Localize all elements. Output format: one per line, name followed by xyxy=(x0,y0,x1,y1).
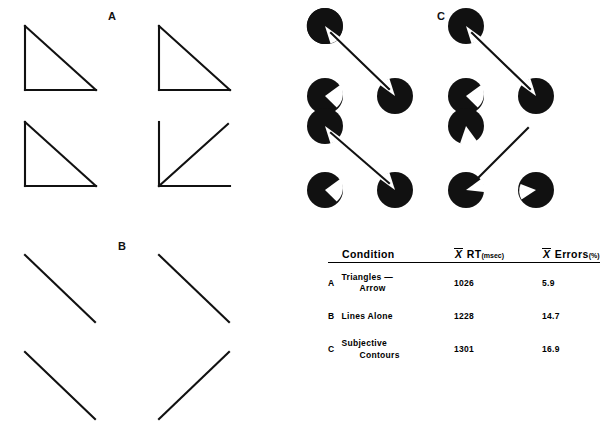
table-header-row: Condition X RT(msec) X Errors(%) xyxy=(328,248,600,263)
header-mean-rt: X RT(msec) xyxy=(454,248,542,263)
line-bottom-right-odd-one-out xyxy=(159,352,229,419)
panel-label-a: A xyxy=(108,10,116,22)
line-top-left xyxy=(25,255,95,322)
line-top-right xyxy=(159,255,229,322)
results-table: Condition X RT(msec) X Errors(%) A Trian… xyxy=(328,248,600,368)
connector-line xyxy=(331,33,389,89)
row-errors-value: 16.9 xyxy=(542,329,600,368)
rt-label: RT xyxy=(467,248,482,260)
condition-line-2: Arrow xyxy=(342,283,455,294)
row-letter: A xyxy=(328,263,342,302)
row-letter: C xyxy=(328,329,342,368)
condition-line-1: Subjective xyxy=(342,338,388,348)
panel-label-c: C xyxy=(437,10,445,22)
header-condition: Condition xyxy=(328,248,454,263)
table-row: A Triangles — Arrow 1026 5.9 xyxy=(328,263,600,302)
row-condition: Lines Alone xyxy=(342,302,455,329)
panel-a-stimuli xyxy=(25,26,230,186)
row-errors-value: 14.7 xyxy=(542,302,600,329)
mean-symbol-errors: X xyxy=(542,248,551,260)
row-errors-value: 5.9 xyxy=(542,263,600,302)
errors-label: Errors xyxy=(555,248,589,260)
panel-b-stimuli xyxy=(25,255,229,419)
row-rt-value: 1026 xyxy=(454,263,542,302)
triangle-top-left xyxy=(25,26,96,90)
panel-c-stimuli xyxy=(307,8,554,208)
c-figure-top-right xyxy=(448,8,554,114)
row-rt-value: 1228 xyxy=(454,302,542,329)
line-bottom-left xyxy=(25,352,95,419)
connector-line xyxy=(331,133,389,183)
condition-line-1: Triangles — xyxy=(342,272,393,282)
errors-unit: (%) xyxy=(589,252,600,259)
row-condition: Triangles — Arrow xyxy=(342,263,455,302)
rt-unit: (msec) xyxy=(482,252,505,259)
condition-line-1: Lines Alone xyxy=(342,311,393,321)
row-condition: Subjective Contours xyxy=(342,329,455,368)
table-row: C Subjective Contours 1301 16.9 xyxy=(328,329,600,368)
mean-symbol-rt: X xyxy=(454,248,463,260)
panel-label-b: B xyxy=(118,240,126,252)
header-mean-errors: X Errors(%) xyxy=(542,248,600,263)
c-figure-bottom-left xyxy=(307,108,413,208)
row-rt-value: 1301 xyxy=(454,329,542,368)
triangle-top-right xyxy=(159,26,230,90)
connector-line xyxy=(472,33,530,89)
table-row: B Lines Alone 1228 14.7 xyxy=(328,302,600,329)
arrow-odd-one-out xyxy=(159,122,230,186)
triangle-bottom-left xyxy=(25,122,96,186)
c-figure-top-left xyxy=(307,8,413,114)
row-letter: B xyxy=(328,302,342,329)
condition-line-2: Contours xyxy=(342,350,455,361)
c-figure-bottom-right-odd-one-out xyxy=(448,108,554,208)
